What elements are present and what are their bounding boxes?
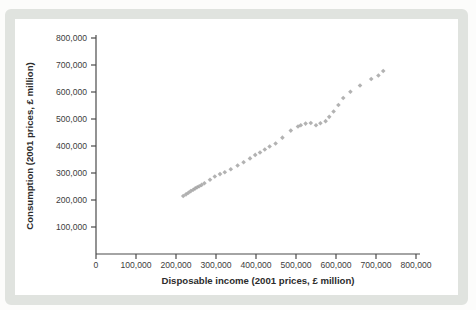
data-point <box>369 77 374 82</box>
data-point <box>229 167 234 172</box>
x-tick-label: 700,000 <box>360 260 391 270</box>
data-point <box>223 170 228 175</box>
data-point <box>213 174 218 179</box>
x-tick-label: 400,000 <box>240 260 271 270</box>
data-point <box>267 144 272 149</box>
x-tick-label: 600,000 <box>320 260 351 270</box>
y-tick-label: 300,000 <box>56 168 87 178</box>
data-point <box>208 177 213 182</box>
data-point <box>253 153 258 158</box>
x-axis-title: Disposable income (2001 prices, £ millio… <box>161 275 354 286</box>
data-point <box>314 123 319 128</box>
x-tick-label: 200,000 <box>160 260 191 270</box>
data-point <box>258 150 263 155</box>
data-point <box>381 69 386 74</box>
data-point <box>336 103 341 108</box>
y-tick-label: 600,000 <box>56 87 87 97</box>
data-point <box>348 89 353 94</box>
data-point <box>235 163 240 168</box>
y-tick-label: 400,000 <box>56 141 87 151</box>
x-tick-label: 500,000 <box>280 260 311 270</box>
y-tick-label: 700,000 <box>56 60 87 70</box>
data-point <box>263 147 268 152</box>
y-axis-title: Consumption (2001 prices, £ million) <box>24 62 35 229</box>
y-tick-label: 200,000 <box>56 195 87 205</box>
data-point <box>358 83 363 88</box>
y-tick-label: 100,000 <box>56 222 87 232</box>
data-point <box>323 119 328 124</box>
y-tick-label: 800,000 <box>56 33 87 43</box>
data-point <box>318 121 323 126</box>
data-point <box>309 121 314 126</box>
x-tick-label: 0 <box>94 260 99 270</box>
data-point <box>218 172 223 177</box>
data-point <box>341 96 346 101</box>
data-point <box>303 121 308 126</box>
data-point <box>376 73 381 78</box>
x-tick-label: 100,000 <box>120 260 151 270</box>
y-tick-label: 500,000 <box>56 114 87 124</box>
data-point <box>289 128 294 133</box>
scatter-chart: 0100,000200,000300,000400,000500,000600,… <box>0 0 476 310</box>
x-tick-label: 800,000 <box>400 260 431 270</box>
data-point <box>280 135 285 140</box>
data-point <box>327 115 332 120</box>
axes: 0100,000200,000300,000400,000500,000600,… <box>56 33 432 270</box>
figure-page: 0100,000200,000300,000400,000500,000600,… <box>0 0 476 310</box>
data-point <box>248 156 253 161</box>
data-point <box>331 109 336 114</box>
data-point <box>273 141 278 146</box>
data-point <box>241 160 246 165</box>
x-tick-label: 300,000 <box>200 260 231 270</box>
data-points <box>181 69 386 199</box>
